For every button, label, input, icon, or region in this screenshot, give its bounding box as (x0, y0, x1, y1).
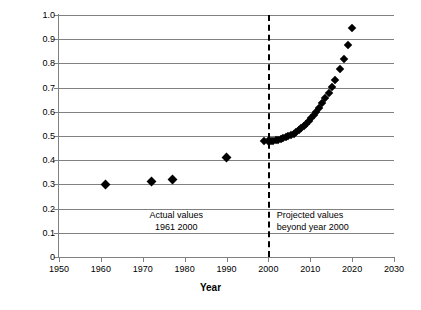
actual-values-note-line2: 1961 2000 (149, 221, 203, 233)
projected-values-note-line1: Projected values (277, 209, 349, 221)
x-axis-tick-label: 2010 (290, 265, 330, 274)
data-point-marker (167, 175, 177, 185)
x-axis-tick-label: 1950 (39, 265, 79, 274)
actual-values-note-line1: Actual values (149, 209, 203, 221)
x-axis-tick (227, 257, 228, 262)
x-axis-tick-label: 2030 (374, 265, 414, 274)
projected-values-note-line2: beyond year 2000 (277, 221, 349, 233)
data-point-marker (335, 65, 343, 73)
x-axis-tick (185, 257, 186, 262)
y-axis-tick-label: 0.9 (15, 35, 55, 44)
x-axis-tick-label: 1960 (81, 265, 121, 274)
x-axis-tick-label: 2020 (332, 265, 372, 274)
projected-values-note: Projected valuesbeyond year 2000 (277, 209, 349, 233)
data-point-marker (340, 54, 348, 62)
x-axis-tick-label: 1980 (165, 265, 205, 274)
x-axis-tick-label: 2000 (248, 265, 288, 274)
y-axis-tick-label: 0.5 (15, 132, 55, 141)
x-axis-tick-label: 1970 (123, 265, 163, 274)
x-axis-tick-label: 1990 (207, 265, 247, 274)
actual-values-note: Actual values1961 2000 (149, 209, 203, 233)
data-point-marker (344, 41, 352, 49)
x-axis-tick (310, 257, 311, 262)
x-axis-tick (268, 257, 269, 262)
y-axis-tick-label: 0.3 (15, 180, 55, 189)
y-axis-tick-label: 0.6 (15, 108, 55, 117)
data-point-marker (146, 177, 156, 187)
y-axis-tick-label: 0.1 (15, 229, 55, 238)
y-axis-tick-label: 0.4 (15, 156, 55, 165)
y-axis-tick-label: 1.0 (15, 11, 55, 20)
x-axis-tick (143, 257, 144, 262)
x-axis-tick (394, 257, 395, 262)
y-axis-tick-label: 0 (15, 253, 55, 262)
x-axis-title: Year (0, 282, 421, 293)
data-point-marker (100, 179, 110, 189)
y-axis-tick-label: 0.2 (15, 205, 55, 214)
y-axis-tick-label: 0.7 (15, 84, 55, 93)
x-axis-tick (59, 257, 60, 262)
year-2000-divider-line (268, 15, 270, 257)
data-point-marker (348, 24, 356, 32)
chart-container: 00.10.20.30.40.50.60.70.80.91.0 19501960… (0, 0, 421, 310)
x-axis-tick (101, 257, 102, 262)
data-point-marker (222, 153, 232, 163)
x-axis-tick (352, 257, 353, 262)
y-axis-tick-label: 0.8 (15, 59, 55, 68)
